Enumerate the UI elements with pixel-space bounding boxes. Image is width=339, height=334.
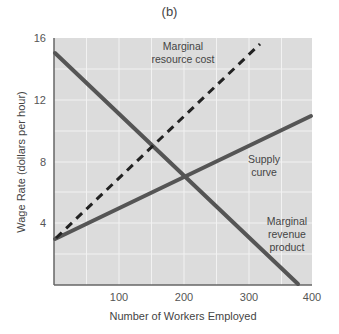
chart: 16 12 8 4 100 200 300 400 Number of Work… [0,0,339,334]
mrc-label-line2: resource cost [151,53,214,65]
x-tick-200: 200 [175,291,193,303]
y-tick-4: 4 [40,217,46,229]
mrp-label-line1: Marginal [267,215,307,227]
mrp-label-line2: revenue [268,228,306,240]
mrp-label-line3: product [269,241,304,253]
y-tick-8: 8 [40,156,46,168]
mrc-label-line1: Marginal [163,40,203,52]
x-axis-label: Number of Workers Employed [109,310,256,322]
y-tick-16: 16 [34,32,46,44]
x-tick-300: 300 [240,291,258,303]
x-tick-100: 100 [110,291,128,303]
x-tick-400: 400 [303,291,321,303]
supply-label-line2: curve [251,166,277,178]
y-axis-label: Wage Rate (dollars per hour) [15,91,27,232]
supply-label-line1: Supply [248,153,281,165]
y-tick-12: 12 [34,94,46,106]
